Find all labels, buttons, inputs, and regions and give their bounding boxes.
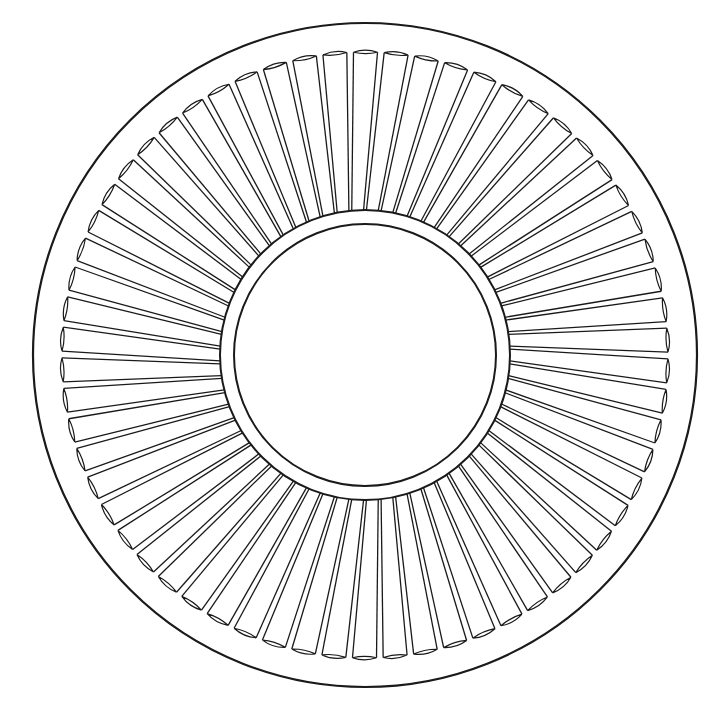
blade-line <box>158 466 271 577</box>
blade-line <box>347 53 349 211</box>
blade-line <box>471 454 576 573</box>
blade-line <box>62 358 220 364</box>
blade-line <box>509 376 663 414</box>
blade-line <box>469 456 571 577</box>
blade-line <box>75 404 229 442</box>
blade-line <box>501 268 655 306</box>
blade-line <box>458 133 571 244</box>
blade-line <box>154 137 259 256</box>
blade-line <box>447 114 549 235</box>
blade-line <box>183 113 272 244</box>
blade-line <box>286 62 320 217</box>
blade-line <box>449 118 553 237</box>
blade-line <box>381 499 383 657</box>
blade-line <box>458 466 547 597</box>
blade-line <box>63 376 221 382</box>
turbine-drawing <box>0 0 721 721</box>
blade-line <box>381 56 415 211</box>
blade-line <box>63 327 220 349</box>
blade-line <box>64 378 222 388</box>
blade-line <box>407 70 468 216</box>
blade-line <box>461 138 577 246</box>
blade-line <box>235 81 296 227</box>
blade-line <box>68 297 222 335</box>
blade-line <box>229 84 293 229</box>
blade-line <box>62 351 220 361</box>
blade-line <box>509 328 667 334</box>
blade-line <box>434 96 523 227</box>
blade-line <box>410 72 474 217</box>
hub-ring-inner <box>234 224 496 486</box>
blade-line <box>182 475 284 596</box>
blade-line <box>510 349 668 359</box>
blade-line <box>138 155 252 265</box>
blade-line <box>377 499 379 657</box>
turbine-diagram <box>0 0 721 721</box>
blade-line <box>153 464 269 572</box>
blade-line <box>421 489 467 641</box>
blade-line <box>262 494 323 640</box>
blade-line <box>508 322 666 332</box>
blade-line <box>410 493 444 648</box>
blade-line <box>315 499 349 654</box>
blade-line <box>256 493 320 638</box>
blade-line <box>263 70 309 222</box>
blade-line <box>207 482 296 613</box>
blade-line <box>481 443 597 551</box>
blade-line <box>159 133 261 254</box>
blade-line <box>510 346 668 352</box>
blade-line <box>67 390 224 412</box>
blade-line <box>393 61 438 213</box>
blade-line <box>487 205 628 277</box>
blade-line <box>352 52 354 210</box>
blade-line <box>434 482 495 628</box>
blade-line <box>133 160 249 268</box>
blade-line <box>510 361 667 383</box>
blade-line <box>177 473 281 592</box>
blade-line <box>479 445 593 555</box>
blade-line <box>437 481 501 626</box>
blade-line <box>506 298 663 320</box>
blade-line <box>101 433 242 505</box>
blade-line <box>292 497 337 649</box>
